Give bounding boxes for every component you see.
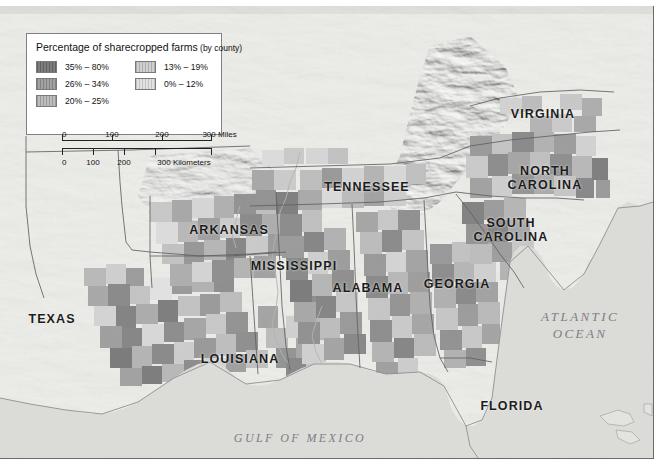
- legend-item-13-19: 13% – 19%: [135, 59, 208, 74]
- legend-column-left: 35% – 80% 26% – 34% 20% – 25%: [36, 59, 109, 110]
- state-label-louisiana: LOUISIANA: [201, 353, 280, 367]
- state-label-tennessee: TENNESSEE: [324, 181, 410, 195]
- scale-miles-tickmark-300: [211, 135, 212, 141]
- legend-swatch-13-19: [135, 61, 156, 73]
- state-label-alabama: ALABAMA: [333, 282, 404, 296]
- legend-title-main: Percentage of sharecropped farms: [36, 41, 198, 53]
- state-label-south-carolina: SOUTH CAROLINA: [474, 217, 549, 244]
- scale-km-tickmark-0: [62, 148, 63, 155]
- legend-column-right: 13% – 19% 0% – 12%: [135, 59, 208, 93]
- map-legend: Percentage of sharecropped farms (by cou…: [26, 33, 222, 135]
- scale-km-tickmark-end: [211, 148, 212, 155]
- water-label-atlantic-ocean: ATLANTIC OCEAN: [541, 308, 619, 342]
- legend-label-0-12: 0% – 12%: [164, 79, 203, 89]
- state-label-mississippi: MISSISSIPPI: [251, 260, 337, 274]
- legend-label-20-25: 20% – 25%: [65, 96, 109, 106]
- map-screenshot: VIRGINIANORTH CAROLINASOUTH CAROLINATENN…: [0, 0, 656, 465]
- legend-classes: 35% – 80% 26% – 34% 20% – 25% 13% – 19%: [36, 59, 212, 108]
- legend-swatch-35-80: [36, 61, 57, 73]
- state-label-virginia: VIRGINIA: [511, 108, 575, 122]
- state-label-north-carolina: NORTH CAROLINA: [508, 165, 583, 192]
- legend-title-sub: (by county): [198, 43, 242, 53]
- state-label-texas: TEXAS: [28, 313, 75, 327]
- legend-label-35-80: 35% – 80%: [65, 62, 109, 72]
- legend-swatch-20-25: [36, 95, 57, 107]
- scale-miles-bar: [62, 140, 212, 148]
- scale-km-tick-200: 200: [117, 158, 130, 167]
- scale-bars: 0 100 200 300 Miles 0 100 200: [62, 130, 212, 168]
- legend-label-26-34: 26% – 34%: [65, 79, 109, 89]
- scale-miles-numbers: 0 100 200 300 Miles: [62, 130, 212, 140]
- scale-km-tick-100: 100: [86, 158, 99, 167]
- scale-km-tickmark-300: [155, 148, 156, 155]
- scale-miles-tickmark-0: [62, 135, 63, 141]
- water-label-gulf-of-mexico: GULF OF MEXICO: [234, 430, 366, 447]
- legend-item-35-80: 35% – 80%: [36, 59, 109, 74]
- legend-title: Percentage of sharecropped farms (by cou…: [36, 41, 212, 53]
- scale-km-bar: [62, 148, 212, 156]
- state-label-arkansas: ARKANSAS: [189, 224, 269, 238]
- scale-km-unit: 300 Kilometers: [157, 158, 210, 167]
- scale-miles-tickmark-200: [162, 135, 163, 141]
- legend-item-0-12: 0% – 12%: [135, 76, 208, 91]
- legend-label-13-19: 13% – 19%: [164, 62, 208, 72]
- legend-item-20-25: 20% – 25%: [36, 93, 109, 108]
- legend-swatch-26-34: [36, 78, 57, 90]
- scale-miles-tickmark-100: [112, 135, 113, 141]
- state-label-georgia: GEORGIA: [424, 278, 491, 292]
- scale-km-tickmark-200: [124, 148, 125, 155]
- scale-miles-unit: 300 Miles: [202, 130, 236, 139]
- scale-km-tick-0: 0: [62, 158, 66, 167]
- scale-km-tickmark-100: [93, 148, 94, 155]
- legend-item-26-34: 26% – 34%: [36, 76, 109, 91]
- scale-km-numbers: 0 100 200 300 Kilometers: [62, 158, 212, 168]
- state-label-florida: FLORIDA: [480, 400, 543, 414]
- legend-swatch-0-12: [135, 78, 156, 90]
